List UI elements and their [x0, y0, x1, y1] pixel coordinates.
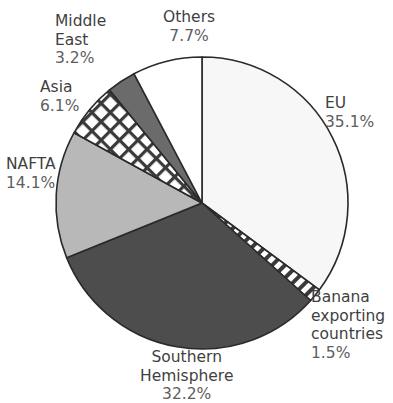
pie-label-eu: EU 35.1%: [325, 94, 374, 131]
pie-label-banana-percent: 1.5%: [311, 344, 385, 363]
pie-label-eu-name: EU: [325, 94, 374, 113]
pie-label-asia-name: Asia: [40, 78, 79, 97]
pie-label-nafta-percent: 14.1%: [6, 174, 56, 193]
pie-label-middle-east: Middle East 3.2%: [55, 12, 106, 68]
pie-label-others-percent: 7.7%: [163, 27, 215, 46]
pie-label-southern-line1: Southern: [140, 348, 233, 367]
pie-label-nafta-name: NAFTA: [6, 155, 56, 174]
pie-label-others: Others 7.7%: [163, 8, 215, 45]
pie-label-others-name: Others: [163, 8, 215, 27]
pie-label-banana-exporting-countries: Banana exporting countries 1.5%: [311, 288, 385, 362]
pie-label-banana-line1: Banana: [311, 288, 385, 307]
pie-label-nafta: NAFTA 14.1%: [6, 155, 56, 192]
pie-label-middle-east-percent: 3.2%: [55, 49, 106, 68]
pie-label-middle-east-name-line1: Middle: [55, 12, 106, 31]
pie-label-banana-line3: countries: [311, 325, 385, 344]
pie-label-banana-line2: exporting: [311, 307, 385, 326]
pie-label-southern-hemisphere: Southern Hemisphere 32.2%: [140, 348, 233, 403]
pie-label-asia: Asia 6.1%: [40, 78, 79, 115]
pie-label-asia-percent: 6.1%: [40, 97, 79, 116]
pie-label-middle-east-name-line2: East: [55, 31, 106, 50]
pie-label-southern-line2: Hemisphere: [140, 367, 233, 386]
pie-label-eu-percent: 35.1%: [325, 113, 374, 132]
pie-label-southern-percent: 32.2%: [140, 385, 233, 403]
pie-slice-layer: [56, 57, 348, 349]
